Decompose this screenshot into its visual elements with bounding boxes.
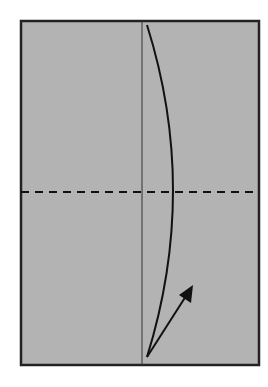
origami-diagram (0, 0, 268, 387)
